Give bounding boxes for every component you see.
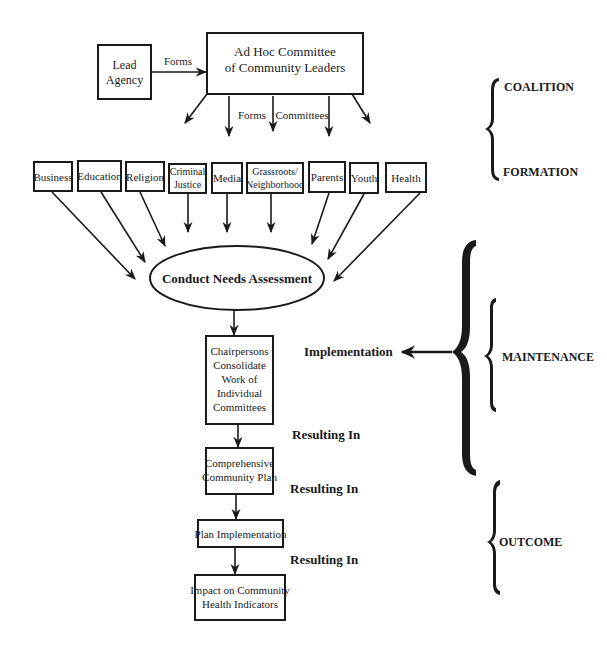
resulting-in-label-1: Resulting In — [292, 427, 361, 442]
committee-grassroots-neighborhood: Grassroots/ Neighborhood — [246, 163, 304, 193]
committee-criminal-justice: Criminal Justice — [169, 164, 206, 193]
svg-text:Committees: Committees — [213, 401, 266, 413]
ad-hoc-label-line1: Ad Hoc Committee — [234, 44, 336, 59]
svg-text:Impact on Community: Impact on Community — [190, 584, 290, 596]
svg-text:Community Plan: Community Plan — [202, 471, 277, 483]
forms-committees-label-2: Committees — [275, 109, 328, 121]
phase-coalition: COALITION — [504, 80, 574, 94]
forms-committees-label-1: Forms — [238, 109, 266, 121]
chairpersons-box: Chairpersons Consolidate Work of Individ… — [206, 336, 273, 424]
svg-text:Grassroots/: Grassroots/ — [252, 166, 298, 177]
impact-box: Impact on Community Health Indicators — [190, 575, 290, 620]
phase-maintenance: MAINTENANCE — [502, 350, 594, 364]
coalition-formation-brace — [485, 78, 499, 181]
plan-implementation-box: Plan Implementation — [195, 520, 287, 547]
lead-agency-box: Lead Agency — [98, 45, 151, 99]
phase-formation: FORMATION — [503, 165, 578, 179]
svg-text:Work of: Work of — [221, 373, 257, 385]
committee-youth: Youth — [350, 163, 378, 193]
lead-agency-label-line2: Agency — [106, 73, 143, 87]
svg-text:Individual: Individual — [217, 387, 262, 399]
comprehensive-plan-box: Comprehensive Community Plan — [202, 448, 277, 494]
coalition-flow-diagram: Lead Agency Forms Ad Hoc Committee of Co… — [0, 0, 607, 658]
maintenance-brace — [484, 298, 496, 412]
phase-outcome: OUTCOME — [499, 535, 562, 549]
svg-text:Comprehensive: Comprehensive — [205, 457, 274, 469]
resulting-in-label-3: Resulting In — [290, 552, 359, 567]
svg-text:Health: Health — [391, 172, 421, 184]
svg-text:Plan Implementation: Plan Implementation — [195, 528, 287, 540]
lead-agency-label-line1: Lead — [113, 58, 137, 72]
svg-text:Religion: Religion — [126, 171, 164, 183]
svg-text:Business: Business — [33, 171, 72, 183]
svg-text:Consolidate: Consolidate — [213, 359, 266, 371]
ad-hoc-committee-box: Ad Hoc Committee of Community Leaders — [207, 33, 363, 94]
committee-health: Health — [386, 163, 426, 192]
implementation-label: Implementation — [304, 344, 394, 359]
svg-text:Parents: Parents — [311, 171, 343, 183]
svg-text:Education: Education — [77, 170, 122, 182]
svg-text:Media: Media — [213, 172, 241, 184]
ad-hoc-label-line2: of Community Leaders — [225, 60, 346, 75]
needs-assessment-ellipse: Conduct Needs Assessment — [150, 246, 324, 310]
svg-text:Justice: Justice — [174, 179, 202, 190]
committee-media: Media — [212, 163, 242, 193]
svg-text:Criminal: Criminal — [170, 166, 206, 177]
implementation-brace — [452, 240, 476, 476]
resulting-in-label-2: Resulting In — [290, 481, 359, 496]
committee-religion: Religion — [126, 162, 164, 191]
forms-label: Forms — [164, 55, 192, 67]
committee-parents: Parents — [309, 162, 345, 192]
committee-education: Education — [77, 161, 122, 191]
svg-text:Chairpersons: Chairpersons — [210, 345, 268, 357]
committee-business: Business — [33, 162, 72, 191]
svg-text:Youth: Youth — [351, 172, 378, 184]
svg-text:Neighborhood: Neighborhood — [246, 179, 304, 190]
svg-text:Health Indicators: Health Indicators — [202, 598, 278, 610]
needs-assessment-label: Conduct Needs Assessment — [162, 271, 313, 286]
